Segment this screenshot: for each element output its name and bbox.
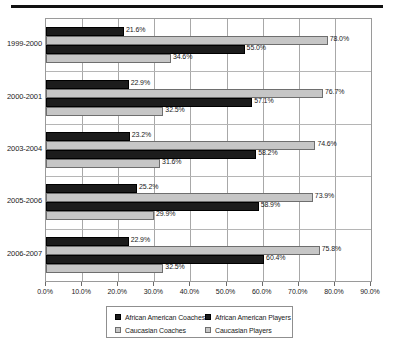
bar: [46, 54, 171, 63]
axis-tick-label: 30.0%: [144, 288, 163, 295]
category-label: 2003-2004: [0, 144, 42, 153]
bar-value-label: 31.6%: [162, 157, 181, 166]
bar-row: 55.0%: [46, 45, 371, 54]
bar: [46, 98, 252, 107]
top-divider-rule: [11, 5, 383, 8]
bar-value-label: 32.5%: [165, 262, 184, 271]
chart-legend: African American Coaches Caucasian Coach…: [106, 306, 293, 338]
bar-value-label: 60.4%: [266, 253, 285, 262]
bar-value-label: 32.5%: [165, 105, 184, 114]
category-label: 2000-2001: [0, 92, 42, 101]
axis-tick-label: 40.0%: [180, 288, 199, 295]
axis-tick-label: 20.0%: [108, 288, 127, 295]
bar: [46, 264, 163, 273]
bar-row: 32.5%: [46, 107, 371, 116]
bar: [46, 211, 154, 220]
legend-item: African American Players: [205, 311, 291, 323]
axis-tick-label: 60.0%: [252, 288, 271, 295]
bar-row: 76.7%: [46, 89, 371, 98]
legend-swatch-icon: [115, 327, 121, 333]
axis-tick-mark: [262, 282, 263, 286]
axis-tick-mark: [334, 282, 335, 286]
bar-value-label: 25.2%: [139, 182, 158, 191]
axis-tick-mark: [298, 282, 299, 286]
bar-value-label: 34.6%: [173, 52, 192, 61]
bar-value-label: 29.9%: [156, 209, 175, 218]
bar: [46, 27, 124, 36]
category-label: 2006-2007: [0, 249, 42, 258]
bar-value-label: 55.0%: [247, 43, 266, 52]
bar-row: 29.9%: [46, 211, 371, 220]
bar-row: 58.9%: [46, 202, 371, 211]
bar: [46, 237, 129, 246]
category-label: 1999-2000: [0, 39, 42, 48]
bar-row: 78.0%: [46, 36, 371, 45]
category-label: 2005-2006: [0, 196, 42, 205]
bar-row: 73.9%: [46, 193, 371, 202]
bar-value-label: 78.0%: [330, 34, 349, 43]
bar-value-label: 73.9%: [315, 191, 334, 200]
axis-tick-mark: [45, 282, 46, 286]
bar: [46, 36, 328, 45]
legend-item: Caucasian Players: [205, 324, 291, 336]
bar: [46, 45, 245, 54]
bar-row: 32.5%: [46, 264, 371, 273]
bar-value-label: 58.9%: [261, 200, 280, 209]
legend-swatch-icon: [205, 314, 211, 320]
legend-item: African American Coaches: [115, 311, 205, 323]
bar-chart: 21.6%78.0%55.0%34.6%22.9%76.7%57.1%32.5%…: [0, 14, 394, 289]
axis-tick-mark: [153, 282, 154, 286]
x-axis: 0.0%10.0%20.0%30.0%40.0%50.0%60.0%70.0%8…: [45, 282, 372, 302]
bar-row: 75.8%: [46, 246, 371, 255]
bar: [46, 150, 256, 159]
bar-value-label: 57.1%: [254, 96, 273, 105]
legend-swatch-icon: [115, 314, 121, 320]
axis-tick-label: 0.0%: [37, 288, 53, 295]
bar: [46, 159, 160, 168]
legend-column-right: African American Players Caucasian Playe…: [205, 311, 291, 337]
bar-value-label: 23.2%: [132, 130, 151, 139]
category-separator: [46, 176, 371, 177]
axis-tick-label: 50.0%: [216, 288, 235, 295]
category-separator: [46, 71, 371, 72]
bar-row: 57.1%: [46, 98, 371, 107]
axis-tick-label: 10.0%: [71, 288, 90, 295]
bar-row: 21.6%: [46, 27, 371, 36]
legend-label: African American Players: [215, 314, 291, 321]
bar-row: 74.6%: [46, 141, 371, 150]
bar: [46, 202, 259, 211]
legend-column-left: African American Coaches Caucasian Coach…: [115, 311, 205, 337]
bar: [46, 255, 264, 264]
plot-area: 21.6%78.0%55.0%34.6%22.9%76.7%57.1%32.5%…: [45, 18, 372, 282]
bar-value-label: 21.6%: [126, 25, 145, 34]
bar-row: 58.2%: [46, 150, 371, 159]
axis-tick-mark: [370, 282, 371, 286]
axis-tick-label: 70.0%: [288, 288, 307, 295]
bar: [46, 89, 323, 98]
bar-value-label: 75.8%: [322, 244, 341, 253]
bar-value-label: 58.2%: [258, 148, 277, 157]
bar-row: 34.6%: [46, 54, 371, 63]
axis-tick-label: 80.0%: [324, 288, 343, 295]
axis-tick-mark: [189, 282, 190, 286]
bar-value-label: 22.9%: [131, 235, 150, 244]
bar-value-label: 22.9%: [131, 78, 150, 87]
axis-tick-label: 90.0%: [360, 288, 379, 295]
legend-label: African American Coaches: [125, 314, 205, 321]
bar: [46, 184, 137, 193]
bar: [46, 107, 163, 116]
bar: [46, 80, 129, 89]
axis-tick-mark: [117, 282, 118, 286]
legend-label: Caucasian Coaches: [125, 327, 186, 334]
bar-row: 31.6%: [46, 159, 371, 168]
bar-value-label: 76.7%: [325, 87, 344, 96]
bar: [46, 132, 130, 141]
axis-tick-mark: [81, 282, 82, 286]
legend-label: Caucasian Players: [215, 327, 272, 334]
legend-item: Caucasian Coaches: [115, 324, 205, 336]
bar-row: 60.4%: [46, 255, 371, 264]
legend-swatch-icon: [205, 327, 211, 333]
category-separator: [46, 229, 371, 230]
axis-tick-mark: [226, 282, 227, 286]
bar-value-label: 74.6%: [317, 139, 336, 148]
